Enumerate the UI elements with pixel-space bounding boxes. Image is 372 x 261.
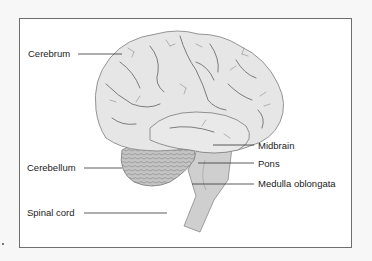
label-pons: Pons (258, 158, 280, 169)
label-midbrain: Midbrain (258, 140, 294, 151)
label-spinal-cord: Spinal cord (27, 207, 75, 218)
label-medulla-oblongata: Medulla oblongata (258, 178, 336, 189)
brain-illustration (0, 0, 372, 261)
label-cerebrum: Cerebrum (28, 48, 70, 59)
stray-mark (2, 243, 4, 245)
label-cerebellum: Cerebellum (27, 162, 76, 173)
